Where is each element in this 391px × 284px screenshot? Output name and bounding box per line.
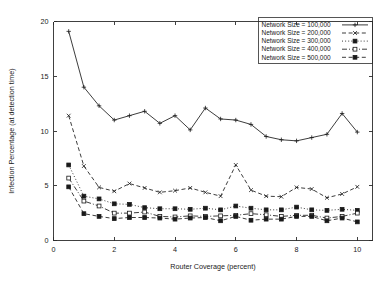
marker-plus: [353, 23, 357, 27]
chart-canvas: 024681005101520 Network Size = 100,000Ne…: [0, 0, 391, 284]
marker-square-open: [143, 210, 147, 214]
marker-plus: [234, 118, 238, 122]
marker-square-filled: [128, 202, 132, 206]
marker-square-filled: [204, 216, 208, 220]
marker-square-filled: [249, 206, 253, 210]
y-tick-label: 0: [45, 236, 49, 245]
marker-plus: [279, 138, 283, 142]
marker-square-filled: [219, 208, 223, 212]
marker-square-open: [249, 212, 253, 216]
marker-square-filled: [340, 216, 344, 220]
marker-square-filled: [82, 194, 86, 198]
marker-square-filled: [325, 208, 329, 212]
marker-square-open: [355, 211, 359, 215]
marker-square-filled: [264, 217, 268, 221]
series-line: [69, 116, 358, 198]
x-tick-label: 4: [173, 245, 177, 254]
marker-square-filled: [128, 216, 132, 220]
marker-square-filled: [97, 197, 101, 201]
marker-square-filled: [67, 185, 71, 189]
legend-label: Network Size = 300,000: [262, 37, 332, 44]
marker-square-filled: [188, 207, 192, 211]
y-tick-label: 10: [41, 127, 49, 136]
x-tick-label: 2: [112, 245, 116, 254]
marker-square-filled: [143, 206, 147, 210]
marker-plus: [66, 29, 70, 33]
marker-square-open: [264, 213, 268, 217]
marker-square-filled: [279, 217, 283, 221]
y-axis-title: Infection Percentage (at detection time): [7, 68, 16, 193]
marker-square-filled: [82, 212, 86, 216]
marker-square-filled: [279, 208, 283, 212]
y-tick-label: 5: [45, 181, 49, 190]
series-markers: [67, 176, 359, 220]
marker-square-filled: [353, 39, 357, 43]
marker-square-filled: [219, 219, 223, 223]
chart-figure: 024681005101520 Network Size = 100,000Ne…: [0, 0, 391, 284]
marker-square-open: [112, 211, 116, 215]
marker-square-filled: [264, 208, 268, 212]
marker-cross: [355, 185, 359, 189]
chart-legend: Network Size = 100,000Network Size = 200…: [258, 18, 373, 64]
marker-cross: [249, 188, 253, 192]
series-markers: [67, 114, 359, 200]
legend-label: Network Size = 500,000: [262, 54, 332, 61]
x-tick-label: 8: [295, 245, 299, 254]
y-tick-label: 20: [41, 17, 49, 26]
legend-label: Network Size = 200,000: [262, 29, 332, 36]
series-2: [67, 114, 359, 200]
marker-square-filled: [310, 215, 314, 219]
marker-square-open: [82, 199, 86, 203]
marker-square-filled: [295, 205, 299, 209]
legend-label: Network Size = 400,000: [262, 45, 332, 52]
series-3: [67, 163, 359, 212]
marker-square-filled: [249, 218, 253, 222]
marker-cross: [82, 164, 86, 168]
marker-square-filled: [295, 215, 299, 219]
x-tick-label: 10: [353, 245, 361, 254]
series-4: [67, 176, 359, 220]
marker-square-filled: [158, 207, 162, 211]
marker-square-filled: [158, 216, 162, 220]
series-markers: [67, 163, 359, 212]
marker-square-filled: [355, 220, 359, 224]
marker-square-filled: [112, 202, 116, 206]
x-tick-label: 6: [234, 245, 238, 254]
marker-cross: [219, 194, 223, 198]
marker-square-filled: [204, 206, 208, 210]
x-tick-label: 0: [52, 245, 56, 254]
marker-square-filled: [112, 217, 116, 221]
marker-square-filled: [143, 216, 147, 220]
marker-square-filled: [188, 216, 192, 220]
marker-square-open: [67, 176, 71, 180]
marker-square-open: [219, 214, 223, 218]
y-tick-label: 15: [41, 72, 49, 81]
marker-square-filled: [234, 215, 238, 219]
marker-square-filled: [173, 207, 177, 211]
marker-square-filled: [67, 163, 71, 167]
legend-label: Network Size = 100,000: [262, 21, 332, 28]
marker-plus: [310, 135, 314, 139]
marker-square-open: [353, 47, 357, 51]
marker-square-filled: [97, 215, 101, 219]
x-axis-title: Router Coverage (percent): [170, 262, 256, 271]
marker-square-open: [97, 204, 101, 208]
marker-plus: [294, 139, 298, 143]
marker-square-open: [128, 211, 132, 215]
marker-plus: [127, 113, 131, 117]
marker-square-filled: [325, 219, 329, 223]
marker-square-filled: [173, 217, 177, 221]
marker-square-filled: [340, 207, 344, 211]
marker-square-filled: [353, 55, 357, 59]
marker-square-filled: [234, 204, 238, 208]
marker-square-filled: [310, 208, 314, 212]
marker-cross: [234, 163, 238, 167]
